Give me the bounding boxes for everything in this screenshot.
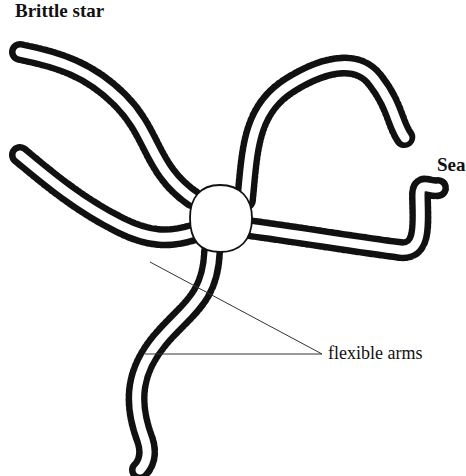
arm-right <box>248 187 438 251</box>
arm-lower <box>137 252 212 470</box>
arm-upper-right <box>245 66 405 200</box>
central-disc <box>190 185 252 252</box>
brittle-star-illustration <box>0 0 466 476</box>
